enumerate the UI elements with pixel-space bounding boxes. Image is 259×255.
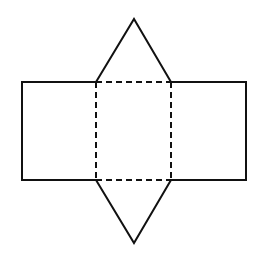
right-rectangle-outline bbox=[171, 82, 246, 180]
prism-net-diagram bbox=[0, 0, 259, 255]
left-rectangle-outline bbox=[22, 82, 96, 180]
top-triangle-outline bbox=[96, 19, 171, 82]
bottom-triangle-outline bbox=[96, 180, 171, 243]
